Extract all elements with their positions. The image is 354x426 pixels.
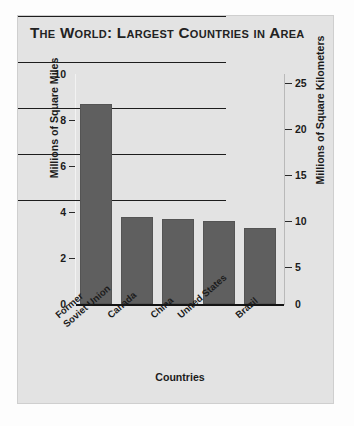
gridline-10 — [18, 16, 226, 17]
y-axis-title-right: Millions of Square Kilometers — [314, 20, 326, 200]
ytick-mark-right-25 — [285, 83, 292, 84]
ytick-mark-right-5 — [285, 267, 292, 268]
bar-brazil — [244, 228, 276, 304]
ytick-right-5: 5 — [295, 262, 321, 273]
bar-canada — [121, 217, 153, 304]
ytick-mark-right-10 — [285, 221, 292, 222]
ytick-right-10: 10 — [295, 216, 321, 227]
ytick-mark-right-20 — [285, 129, 292, 130]
right-axis-spine — [284, 74, 285, 305]
x-axis-title: Countries — [76, 371, 284, 383]
ytick-mark-left-2 — [69, 258, 75, 259]
chart-panel: The World: Largest Countries in Area 10 … — [17, 15, 334, 404]
ytick-right-0: 0 — [295, 299, 321, 310]
y-axis-title-left: Millions of Square Miles — [48, 38, 60, 198]
ytick-mark-left-6 — [69, 166, 75, 167]
chart-title: The World: Largest Countries in Area — [30, 24, 322, 43]
ytick-left-4: 4 — [40, 207, 66, 218]
ytick-left-2: 2 — [40, 253, 66, 264]
chart-figure: The World: Largest Countries in Area 10 … — [0, 0, 354, 426]
bar-china — [162, 219, 194, 304]
ytick-mark-right-15 — [285, 175, 292, 176]
ytick-mark-left-8 — [69, 120, 75, 121]
plot-area — [76, 74, 284, 304]
ytick-mark-left-4 — [69, 212, 75, 213]
